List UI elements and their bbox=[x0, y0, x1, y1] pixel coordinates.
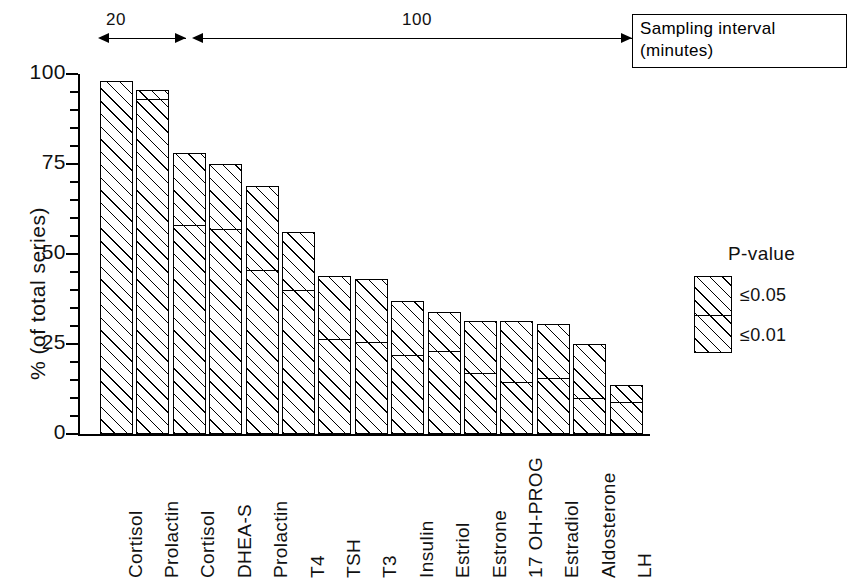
y-axis-title: % (of total series) bbox=[26, 207, 50, 380]
y-axis-minor-tick bbox=[70, 91, 78, 92]
bar-aldosterone[interactable] bbox=[573, 344, 606, 434]
category-label: Insulin bbox=[416, 520, 438, 578]
y-axis-minor-tick bbox=[70, 145, 78, 146]
y-axis-tick-label: 100 bbox=[14, 60, 66, 84]
y-axis-minor-tick bbox=[70, 127, 78, 128]
y-axis-minor-tick bbox=[70, 235, 78, 236]
bar-segment-divider bbox=[209, 229, 242, 230]
chart-canvas: 20 100 Sampling interval (minutes) 02550… bbox=[0, 0, 853, 582]
bar-segment-divider bbox=[282, 290, 315, 291]
y-axis-minor-tick bbox=[70, 289, 78, 290]
y-axis-minor-tick bbox=[70, 379, 78, 380]
y-axis-tick-label: 0 bbox=[14, 420, 66, 444]
category-label: T3 bbox=[379, 555, 401, 578]
category-label: Cortisol bbox=[125, 510, 147, 578]
category-label: Prolactin bbox=[161, 500, 183, 578]
bar-segment-divider bbox=[428, 351, 461, 352]
category-label: Aldosterone bbox=[598, 472, 620, 578]
y-axis-major-tick bbox=[66, 73, 78, 74]
bar-cortisol[interactable] bbox=[100, 81, 133, 434]
bar-segment-divider bbox=[500, 382, 533, 383]
bar-estrone[interactable] bbox=[464, 321, 497, 434]
annotation-20-label: 20 bbox=[106, 10, 126, 30]
bar-segment-divider bbox=[610, 402, 643, 403]
y-axis-tick-label: 75 bbox=[14, 150, 66, 174]
bar-segment-divider bbox=[136, 99, 169, 100]
y-axis-minor-tick bbox=[70, 199, 78, 200]
annotation-100-line bbox=[196, 38, 632, 39]
category-label: TSH bbox=[343, 539, 365, 578]
bar-segment-divider bbox=[318, 339, 351, 340]
legend-label-lower: ≤0.01 bbox=[740, 325, 786, 346]
y-axis-minor-tick bbox=[70, 109, 78, 110]
category-label: LH bbox=[634, 553, 656, 578]
bar-t3[interactable] bbox=[355, 279, 388, 434]
bar-cortisol[interactable] bbox=[173, 153, 206, 434]
bar-estriol[interactable] bbox=[428, 312, 461, 434]
category-label: DHEA-S bbox=[234, 504, 256, 578]
annotation-100-arrowhead-left bbox=[192, 33, 203, 43]
y-axis-minor-tick bbox=[70, 181, 78, 182]
y-axis-major-tick bbox=[66, 343, 78, 344]
y-axis-minor-tick bbox=[70, 307, 78, 308]
category-label: Cortisol bbox=[197, 510, 219, 578]
bar-segment-divider bbox=[391, 355, 424, 356]
category-label: Estriol bbox=[452, 522, 474, 578]
legend-label-upper: ≤0.05 bbox=[740, 285, 786, 306]
category-label: Prolactin bbox=[270, 500, 292, 578]
bar-lh[interactable] bbox=[610, 385, 643, 434]
annotation-20-arrowhead-right bbox=[175, 33, 186, 43]
legend-swatch-divider bbox=[694, 315, 732, 316]
annotation-100-label: 100 bbox=[402, 10, 432, 30]
y-axis-major-tick bbox=[66, 253, 78, 254]
y-axis-minor-tick bbox=[70, 361, 78, 362]
y-axis-minor-tick bbox=[70, 397, 78, 398]
bar-t4[interactable] bbox=[282, 232, 315, 434]
annotation-20-line bbox=[102, 38, 186, 39]
y-axis-major-tick bbox=[66, 163, 78, 164]
y-axis-minor-tick bbox=[70, 271, 78, 272]
bar-segment-divider bbox=[173, 225, 206, 226]
bar-insulin[interactable] bbox=[391, 301, 424, 434]
category-label: 17 OH-PROG bbox=[525, 457, 547, 578]
bar-segment-divider bbox=[246, 270, 279, 271]
category-label: T4 bbox=[307, 555, 329, 578]
category-label: Estradiol bbox=[561, 500, 583, 578]
bar-segment-divider bbox=[573, 398, 606, 399]
legend-title: P-value bbox=[728, 243, 795, 265]
bar-prolactin[interactable] bbox=[136, 90, 169, 434]
annotation-100-arrowhead-right bbox=[621, 33, 632, 43]
annotation-20-arrowhead-left bbox=[98, 33, 109, 43]
y-axis-minor-tick bbox=[70, 217, 78, 218]
y-axis-minor-tick bbox=[70, 325, 78, 326]
bar-17-oh-prog[interactable] bbox=[500, 321, 533, 434]
bar-segment-divider bbox=[537, 378, 570, 379]
bar-tsh[interactable] bbox=[318, 276, 351, 434]
y-axis-major-tick bbox=[66, 433, 78, 434]
bar-dhea-s[interactable] bbox=[209, 164, 242, 434]
bar-segment-divider bbox=[355, 342, 388, 343]
y-axis-minor-tick bbox=[70, 415, 78, 416]
category-label: Estrone bbox=[489, 510, 511, 578]
sampling-interval-callout: Sampling interval (minutes) bbox=[632, 14, 847, 68]
x-axis-line bbox=[78, 434, 650, 436]
bar-segment-divider bbox=[464, 373, 497, 374]
bar-prolactin[interactable] bbox=[246, 186, 279, 434]
y-axis-line bbox=[78, 74, 80, 436]
